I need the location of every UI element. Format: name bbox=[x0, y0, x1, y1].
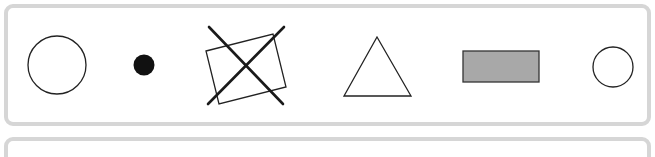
crossed-rectangle bbox=[206, 27, 286, 104]
gray-rectangle bbox=[463, 51, 539, 82]
large-circle bbox=[28, 36, 86, 94]
triangle bbox=[344, 37, 411, 96]
shapes-layer bbox=[0, 0, 655, 157]
filled-dot bbox=[134, 55, 155, 76]
small-circle bbox=[593, 47, 633, 87]
diagram-canvas bbox=[0, 0, 655, 157]
